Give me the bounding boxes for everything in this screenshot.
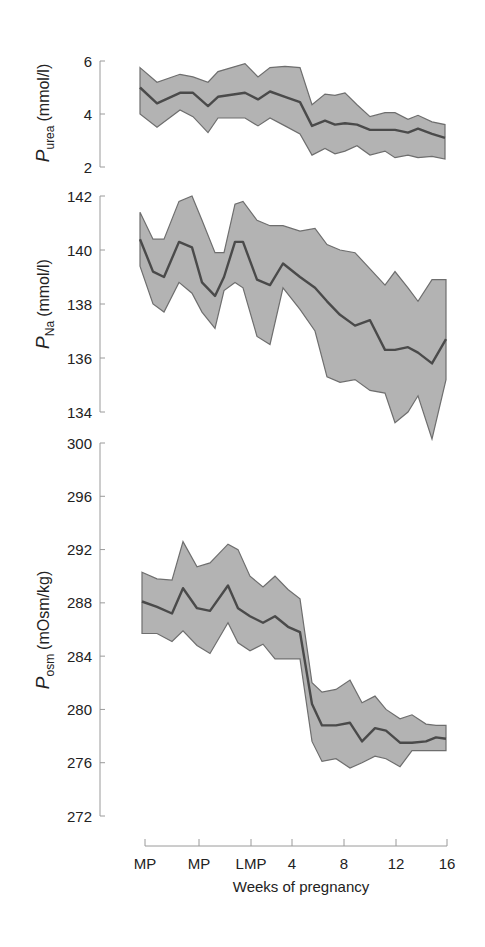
x-tick-label: 12: [388, 855, 405, 872]
y-tick-label: 272: [67, 808, 92, 825]
urea-panel: 246Purea(mmol/l): [32, 53, 445, 176]
y-tick-label: 296: [67, 488, 92, 505]
figure-caption-truncated: [0, 936, 485, 947]
y-axis-label: PNa(mmol/l): [32, 259, 57, 349]
y-tick-label: 300: [67, 435, 92, 452]
y-tick-label: 140: [67, 242, 92, 259]
y-tick-label: 142: [67, 188, 92, 205]
y-tick-label: 292: [67, 541, 92, 558]
y-tick-label: 276: [67, 754, 92, 771]
y-axis-label: Purea(mmol/l): [32, 64, 57, 162]
x-tick-label: LMP: [236, 855, 267, 872]
y-tick-label: 6: [84, 53, 92, 70]
y-tick-label: 280: [67, 701, 92, 718]
y-tick-label: 2: [84, 159, 92, 176]
y-tick-label: 288: [67, 594, 92, 611]
osmolality-panel: 272276280284288292296300Posm(mOsm/kg): [32, 435, 446, 825]
x-tick-label: 8: [340, 855, 348, 872]
x-tick-label: 4: [288, 855, 296, 872]
y-tick-label: 136: [67, 350, 92, 367]
y-tick-label: 284: [67, 648, 92, 665]
range-band: [140, 196, 446, 439]
y-axis-label: Posm(mOsm/kg): [32, 571, 57, 689]
range-band: [140, 64, 445, 160]
y-tick-label: 138: [67, 296, 92, 313]
y-tick-label: 4: [84, 106, 92, 123]
pregnancy-plasma-chart: 246Purea(mmol/l)134136138140142PNa(mmol/…: [0, 0, 485, 947]
range-band: [142, 542, 446, 768]
panels: 246Purea(mmol/l)134136138140142PNa(mmol/…: [32, 53, 446, 825]
x-axis-label: Weeks of pregnancy: [233, 878, 370, 895]
x-tick-label: MP: [134, 855, 157, 872]
x-tick-label: MP: [188, 855, 211, 872]
sodium-panel: 134136138140142PNa(mmol/l): [32, 188, 446, 440]
x-axis: MPMPLMP481216Weeks of pregnancy: [134, 839, 456, 895]
x-tick-label: 16: [439, 855, 456, 872]
y-tick-label: 134: [67, 404, 92, 421]
